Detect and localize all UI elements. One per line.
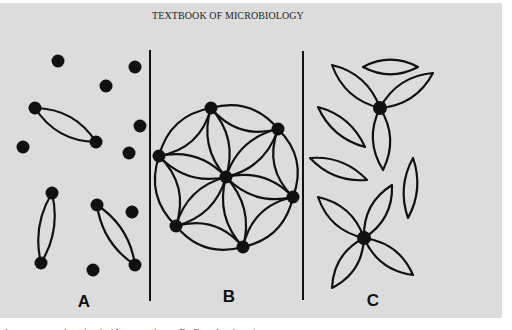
centromere-dot [46, 187, 59, 200]
chromosome-dot [123, 147, 136, 160]
chromosome-dot [52, 55, 65, 68]
rosette-center-dot [373, 101, 387, 115]
free-chromatid [363, 60, 418, 75]
chromosome-spindle [38, 193, 55, 263]
ring-spindle [176, 223, 243, 250]
rosette-petal [364, 238, 413, 275]
panel-label-c: C [367, 291, 379, 310]
centromere-dot [129, 259, 142, 272]
rosette-center-dot [357, 231, 371, 245]
centromere-dot [29, 102, 42, 115]
centromere-dot [90, 136, 103, 149]
panel-a [17, 55, 147, 277]
center-node-dot [220, 171, 233, 184]
panel-label-a: A [78, 292, 90, 311]
rosette-petal [318, 197, 364, 238]
rosette-petal [364, 185, 392, 238]
ring-node-dot [153, 150, 166, 163]
chromosome-dot [87, 264, 100, 277]
panel-b [153, 102, 300, 254]
ring-node-dot [287, 191, 300, 204]
ring-spindle [243, 197, 293, 247]
spoke-spindle [176, 177, 226, 226]
panel-label-b: B [223, 287, 235, 306]
ring-node-dot [237, 241, 250, 254]
chromosome-dot [100, 80, 113, 93]
ring-spindle [155, 156, 180, 226]
spoke-spindle [226, 175, 293, 199]
chromosome-spindle [35, 108, 96, 142]
free-chromatid [318, 107, 365, 147]
ring-node-dot [205, 102, 218, 115]
centromere-dot [35, 257, 48, 270]
caption-text: chromosomes in mitosis (A: metaphase; B,… [0, 326, 512, 330]
free-chromatid [310, 158, 367, 181]
panel-c [310, 60, 433, 288]
chromosome-dot [126, 206, 139, 219]
ring-spindle [159, 108, 211, 156]
rosette-petal [380, 73, 433, 108]
spoke-spindle [159, 154, 226, 179]
cropped-caption: chromosomes in mitosis (A: metaphase; B,… [0, 324, 512, 330]
chromosome-dot [17, 141, 30, 154]
ring-spindle [273, 129, 298, 197]
spoke-spindle [226, 129, 278, 177]
spoke-spindle [223, 177, 246, 247]
mitosis-diagram: A B C [0, 0, 512, 330]
chromosome-dot [129, 61, 142, 74]
chromosome-dot [134, 120, 147, 133]
free-chromatid [404, 158, 418, 218]
ring-node-dot [272, 123, 285, 136]
rosette-petal [373, 108, 390, 170]
rosette-petal [332, 238, 364, 288]
spoke-spindle [207, 108, 229, 177]
centromere-dot [91, 199, 104, 212]
ring-node-dot [170, 220, 183, 233]
ring-spindle [211, 105, 278, 132]
